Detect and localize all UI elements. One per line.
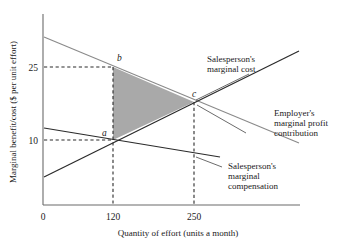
annotation-marginal-compensation-line1: Salesperson's [228,161,277,171]
annotation-employer-profit-line3: contribution [274,128,318,138]
annotation-marginal-compensation-line2: marginal [228,171,260,181]
x-tick-120: 120 [106,212,121,222]
annotation-employer-profit-line1: Employer's [274,108,315,118]
annotation-employer-profit-line2: marginal profit [274,118,329,128]
point-label-a: a [102,128,107,138]
annotation-marginal-cost-line1: Salesperson's [207,54,256,64]
y-axis-label: Marginal benefit/cost ($ per unit effort… [8,41,18,183]
figure-container: 25 10 0 120 250 b a c Salesperson's marg… [0,0,349,251]
leader-marginal-compensation [196,157,222,167]
x-tick-250: 250 [187,212,202,222]
y-tick-10: 10 [29,136,39,146]
leader-marginal-cost [196,74,249,100]
annotation-marginal-cost-line2: marginal cost [207,64,256,74]
leader-employer-profit [197,105,246,133]
y-tick-25: 25 [29,63,39,73]
surplus-region [113,67,194,140]
annotation-marginal-compensation-line3: compensation [228,181,278,191]
point-label-b: b [117,53,122,63]
economics-chart: 25 10 0 120 250 b a c Salesperson's marg… [0,0,349,251]
point-label-c: c [192,89,197,99]
x-axis-label: Quantity of effort (units a month) [118,228,239,238]
x-tick-0: 0 [41,212,46,222]
salesperson-marginal-cost-curve [44,51,299,177]
employer-marginal-profit-curve [44,37,299,143]
